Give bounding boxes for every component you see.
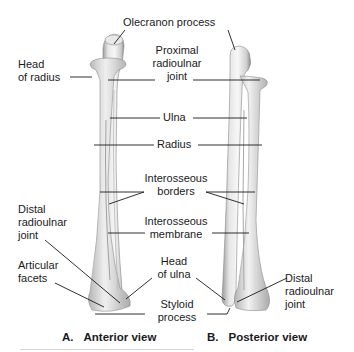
- label-proximal-radioulnar-joint: Proximal radioulnar joint: [150, 44, 204, 83]
- caption-title-posterior: Posterior view: [229, 331, 308, 343]
- label-head-of-radius: Head of radius: [18, 58, 60, 84]
- label-interosseous-borders: Interosseous borders: [136, 172, 216, 198]
- caption-anterior-view: A.Anterior view: [62, 331, 156, 343]
- caption-letter-a: A.: [62, 331, 74, 343]
- label-radius: Radius: [157, 138, 191, 151]
- label-distal-radioulnar-joint-anterior: Distal radioulnar joint: [18, 203, 67, 242]
- anterior-view-bones: [88, 34, 130, 311]
- caption-posterior-view: B.Posterior view: [207, 331, 307, 343]
- caption-letter-b: B.: [207, 331, 219, 343]
- label-distal-radioulnar-joint-posterior: Distal radioulnar joint: [285, 272, 334, 311]
- forearm-bones-diagram: Olecranon process Head of radius Proxima…: [0, 0, 354, 352]
- posterior-view-bones: [222, 46, 270, 311]
- label-olecranon-process: Olecranon process: [123, 16, 215, 29]
- label-styloid-process: Styloid process: [148, 298, 206, 324]
- bottom-divider: [20, 349, 194, 350]
- label-interosseous-membrane: Interosseous membrane: [136, 215, 216, 241]
- label-articular-facets: Articular facets: [18, 259, 58, 285]
- caption-title-anterior: Anterior view: [84, 331, 157, 343]
- label-ulna: Ulna: [163, 111, 186, 124]
- label-head-of-ulna: Head of ulna: [150, 255, 198, 281]
